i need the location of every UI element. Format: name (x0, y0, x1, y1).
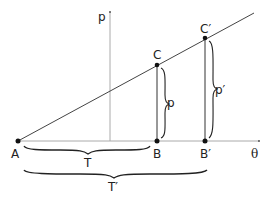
label-A: A (11, 147, 20, 161)
brace-T-prime (24, 170, 207, 178)
label-C: C (153, 48, 161, 62)
label-T: T (83, 156, 92, 170)
label-B-prime: B′ (200, 147, 211, 161)
label-p-prime: p′ (215, 83, 226, 97)
label-p: p (167, 96, 175, 110)
point-A (16, 139, 21, 144)
point-C (155, 63, 160, 68)
label-p-axis: p (98, 10, 106, 24)
theta-axis-arrow-tip (258, 140, 260, 142)
p-axis-arrow-tip (109, 11, 111, 13)
label-T-prime: T′ (107, 180, 118, 194)
diagram-canvas: p θ A B B′ C C′ p p′ T T′ (0, 0, 275, 204)
brace-T (24, 146, 150, 154)
point-B (155, 139, 160, 144)
label-B: B (153, 147, 161, 161)
label-theta-axis: θ (251, 147, 258, 161)
label-C-prime: C′ (200, 22, 211, 36)
point-B-prime (203, 139, 208, 144)
line-through-A (18, 13, 254, 141)
point-C-prime (203, 36, 208, 41)
